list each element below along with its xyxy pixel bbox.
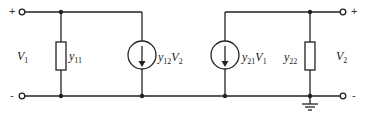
port1-minus-terminal — [19, 93, 25, 99]
y22-admittance — [305, 42, 315, 70]
y11-admittance — [56, 42, 66, 70]
port1-minus-sign: - — [10, 90, 14, 101]
circuit-diagram: + - + - V1 y11 y12V2 y21V1 y22 V2 — [0, 0, 365, 120]
src12-arrow-icon — [139, 61, 146, 67]
v1-label: V1 — [17, 50, 28, 65]
port2-minus-terminal — [340, 93, 346, 99]
y22-label: y22 — [284, 51, 297, 66]
junction-dot — [308, 94, 312, 98]
junction-dot — [59, 10, 63, 14]
port2-plus-terminal — [340, 9, 346, 15]
junction-dot — [140, 94, 144, 98]
junction-dot — [223, 94, 227, 98]
port1-plus-sign: + — [9, 6, 15, 17]
port2-plus-sign: + — [351, 6, 357, 17]
src21-arrow-icon — [222, 61, 229, 67]
y21v1-label: y21V1 — [242, 51, 267, 66]
junction-dot — [59, 94, 63, 98]
junction-dot — [308, 10, 312, 14]
v2-label: V2 — [336, 50, 347, 65]
y11-label: y11 — [69, 50, 82, 65]
port2-minus-sign: - — [352, 90, 356, 101]
y12v2-label: y12V2 — [158, 51, 183, 66]
port1-plus-terminal — [19, 9, 25, 15]
